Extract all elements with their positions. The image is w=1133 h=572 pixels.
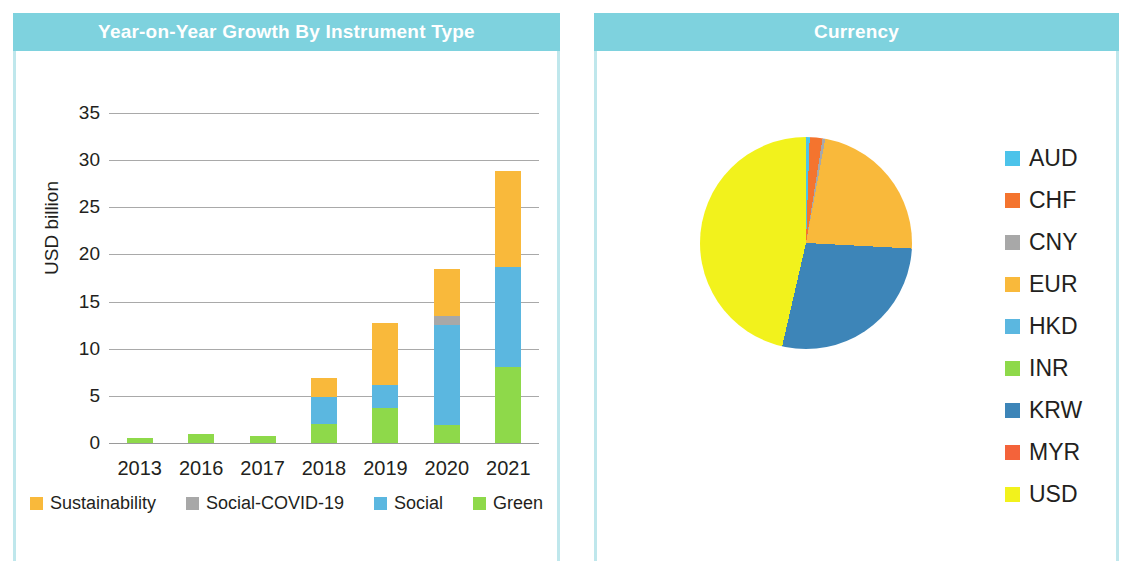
- bar-stack: [372, 323, 398, 443]
- legend-label: KRW: [1029, 399, 1082, 422]
- legend-swatch-icon: [186, 497, 199, 510]
- bar-segment-green: [250, 436, 276, 443]
- bar-segment-green: [372, 408, 398, 443]
- pie-chart-legend: AUDCHFCNYEURHKDINRKRWMYRUSD: [1005, 147, 1082, 506]
- gridline: [109, 349, 539, 350]
- y-axis-tick: 15: [79, 291, 100, 313]
- currency-legend-item-eur[interactable]: EUR: [1005, 273, 1082, 296]
- currency-legend-item-chf[interactable]: CHF: [1005, 189, 1082, 212]
- y-axis-label: USD billion: [41, 181, 63, 275]
- y-axis-tick: 0: [89, 432, 100, 454]
- y-axis-tick: 10: [79, 338, 100, 360]
- chart-stage: Year-on-Year Growth By Instrument Type U…: [0, 0, 1133, 572]
- legend-swatch-icon: [1005, 403, 1020, 418]
- x-axis-tick: 2019: [363, 457, 408, 480]
- legend-label: HKD: [1029, 315, 1078, 338]
- legend-label: Green: [493, 493, 543, 514]
- bar-segment-green: [188, 434, 214, 443]
- bar-stack: [495, 171, 521, 443]
- bar-stack: [188, 434, 214, 443]
- legend-label: CHF: [1029, 189, 1076, 212]
- x-axis-tick: 2013: [117, 457, 162, 480]
- legend-swatch-icon: [30, 497, 43, 510]
- y-axis-tick: 20: [79, 243, 100, 265]
- bar-stack: [311, 378, 337, 443]
- currency-legend-item-myr[interactable]: MYR: [1005, 441, 1082, 464]
- bar-segment-sustainability: [311, 378, 337, 397]
- legend-swatch-icon: [1005, 319, 1020, 334]
- legend-swatch-icon: [1005, 361, 1020, 376]
- legend-swatch-icon: [374, 497, 387, 510]
- currency-legend-item-hkd[interactable]: HKD: [1005, 315, 1082, 338]
- bar-plot-area: 0510152025303520132016201720182019202020…: [109, 113, 539, 443]
- legend-swatch-icon: [473, 497, 486, 510]
- legend-label: INR: [1029, 357, 1069, 380]
- currency-legend-item-krw[interactable]: KRW: [1005, 399, 1082, 422]
- legend-item-green[interactable]: Green: [473, 493, 543, 514]
- x-axis-tick: 2021: [486, 457, 531, 480]
- gridline: [109, 160, 539, 161]
- y-axis-tick: 30: [79, 149, 100, 171]
- legend-label: USD: [1029, 483, 1078, 506]
- currency-legend-item-cny[interactable]: CNY: [1005, 231, 1082, 254]
- legend-label: AUD: [1029, 147, 1078, 170]
- legend-label: MYR: [1029, 441, 1080, 464]
- y-axis-tick: 25: [79, 196, 100, 218]
- bar-segment-green: [434, 425, 460, 443]
- legend-item-sustainability[interactable]: Sustainability: [30, 493, 156, 514]
- gridline: [109, 302, 539, 303]
- panel-title-currency: Currency: [594, 13, 1119, 51]
- legend-swatch-icon: [1005, 193, 1020, 208]
- bar-stack: [434, 269, 460, 443]
- bar-segment-sustainability: [434, 269, 460, 316]
- x-axis-tick: 2018: [302, 457, 347, 480]
- x-axis-tick: 2017: [240, 457, 285, 480]
- gridline: [109, 207, 539, 208]
- pie-graphic: [700, 137, 912, 349]
- legend-label: Sustainability: [50, 493, 156, 514]
- legend-swatch-icon: [1005, 445, 1020, 460]
- bar-segment-social: [434, 325, 460, 425]
- bar-segment-sustainability: [495, 171, 521, 266]
- bar-segment-social: [311, 397, 337, 424]
- legend-item-social[interactable]: Social: [374, 493, 443, 514]
- bar-chart: USD billion 0510152025303520132016201720…: [13, 51, 560, 561]
- x-axis-tick: 2016: [179, 457, 224, 480]
- panel-instrument-type: Year-on-Year Growth By Instrument Type U…: [13, 13, 560, 561]
- y-axis-tick: 35: [79, 102, 100, 124]
- y-axis-tick: 5: [89, 385, 100, 407]
- legend-swatch-icon: [1005, 277, 1020, 292]
- legend-swatch-icon: [1005, 487, 1020, 502]
- legend-item-social-covid-19[interactable]: Social-COVID-19: [186, 493, 344, 514]
- panel-title-instrument-type: Year-on-Year Growth By Instrument Type: [13, 13, 560, 51]
- bar-segment-green: [127, 438, 153, 443]
- bar-segment-social-covid-19: [434, 316, 460, 325]
- bar-segment-green: [495, 367, 521, 443]
- gridline: [109, 113, 539, 114]
- gridline: [109, 254, 539, 255]
- legend-label: EUR: [1029, 273, 1078, 296]
- bar-stack: [250, 436, 276, 443]
- bar-segment-social: [372, 385, 398, 409]
- currency-legend-item-inr[interactable]: INR: [1005, 357, 1082, 380]
- legend-label: CNY: [1029, 231, 1078, 254]
- bar-segment-sustainability: [372, 323, 398, 384]
- bar-segment-green: [311, 424, 337, 443]
- bar-stack: [127, 438, 153, 443]
- pie-chart: AUDCHFCNYEURHKDINRKRWMYRUSD: [594, 51, 1119, 561]
- x-axis-tick: 2020: [425, 457, 470, 480]
- currency-legend-item-usd[interactable]: USD: [1005, 483, 1082, 506]
- currency-legend-item-aud[interactable]: AUD: [1005, 147, 1082, 170]
- bar-chart-legend: SustainabilitySocial-COVID-19SocialGreen: [13, 493, 560, 514]
- legend-swatch-icon: [1005, 151, 1020, 166]
- legend-swatch-icon: [1005, 235, 1020, 250]
- x-axis-line: [109, 443, 539, 444]
- legend-label: Social: [394, 493, 443, 514]
- bar-segment-social: [495, 267, 521, 367]
- panel-currency: Currency AUDCHFCNYEURHKDINRKRWMYRUSD: [594, 13, 1119, 561]
- legend-label: Social-COVID-19: [206, 493, 344, 514]
